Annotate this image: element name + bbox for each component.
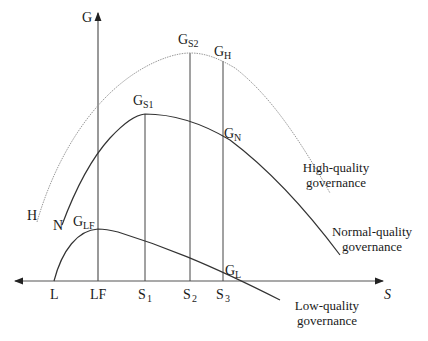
svg-text:1: 1 [147, 293, 152, 304]
svg-text:LF: LF [83, 220, 95, 231]
svg-text:Normal-quality: Normal-quality [332, 224, 413, 239]
svg-text:S: S [216, 287, 224, 302]
svg-text:governance: governance [297, 313, 357, 328]
low-quality-curve [54, 229, 280, 300]
point-label-gs1: G S1 [133, 93, 154, 110]
svg-text:S: S [138, 287, 146, 302]
svg-text:High-quality: High-quality [303, 160, 370, 175]
svg-text:Low-quality: Low-quality [295, 298, 360, 313]
high-quality-curve [37, 53, 330, 222]
svg-text:governance: governance [306, 175, 366, 190]
point-label-gh: G H [214, 44, 231, 61]
svg-text:S: S [183, 287, 191, 302]
svg-text:G: G [73, 214, 83, 229]
tick-label-lf: LF [90, 287, 107, 302]
svg-text:S1: S1 [143, 99, 154, 110]
svg-text:G: G [133, 93, 143, 108]
svg-text:G: G [214, 44, 224, 59]
x-axis-label: S [384, 287, 391, 302]
curve-start-label-h: H [27, 208, 37, 223]
svg-text:governance: governance [342, 239, 402, 254]
svg-text:3: 3 [225, 293, 230, 304]
tick-label-s2: S 2 [183, 287, 197, 304]
normal-quality-label: Normal-quality governance [332, 224, 413, 254]
low-quality-label: Low-quality governance [295, 298, 360, 328]
svg-text:G: G [225, 263, 235, 278]
high-quality-label: High-quality governance [303, 160, 370, 190]
svg-text:N: N [234, 132, 241, 143]
svg-text:G: G [178, 32, 188, 47]
point-label-glf: G LF [73, 214, 95, 231]
svg-text:L: L [235, 269, 241, 280]
svg-text:H: H [224, 50, 231, 61]
point-label-gn: G N [224, 126, 241, 143]
y-axis-label: G [82, 10, 92, 25]
curve-start-label-n: N [53, 218, 63, 233]
tick-label-s3: S 3 [216, 287, 230, 304]
svg-text:G: G [224, 126, 234, 141]
tick-label-s1: S 1 [138, 287, 152, 304]
point-label-gs2: G S2 [178, 32, 199, 49]
normal-quality-curve [62, 114, 340, 255]
svg-text:2: 2 [192, 293, 197, 304]
governance-diagram: G S L LF S 1 S 2 S 3 G S2 G H G S1 G N G… [0, 0, 428, 341]
tick-label-l: L [50, 287, 59, 302]
svg-text:S2: S2 [188, 38, 199, 49]
point-label-gl: G L [225, 263, 241, 280]
